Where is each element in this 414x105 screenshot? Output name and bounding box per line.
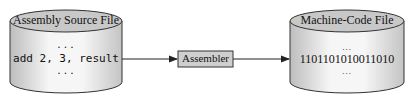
assembler-label: Assembler [178, 52, 233, 64]
target-content: 1101101010011010 [290, 52, 404, 67]
source-dots-top: ... [10, 40, 122, 50]
target-dots-top: ... [290, 42, 404, 52]
source-file-label: Assembly Source File [10, 13, 122, 28]
source-dots-bottom: ... [10, 66, 122, 76]
source-content: add 2, 3, result [10, 52, 122, 65]
target-dots-bottom: ... [290, 66, 404, 76]
target-file-label: Machine-Code File [290, 13, 404, 28]
